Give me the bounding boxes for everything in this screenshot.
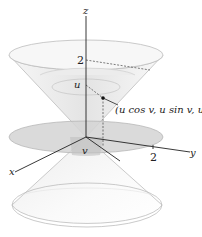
x-axis-label: x: [9, 166, 15, 177]
point-label: (u cos v, u sin v, u): [115, 104, 202, 115]
z-tick-label: 2: [77, 54, 84, 67]
point-marker: [101, 96, 105, 100]
z-axis-label: z: [82, 5, 89, 16]
angle-v-label: v: [82, 145, 88, 156]
y-axis-label: y: [189, 147, 196, 158]
cone-diagram: z x y 2 2 u v (u cos v, u sin v, u): [0, 0, 202, 237]
y-tick-label: 2: [150, 151, 157, 164]
height-u-label: u: [74, 79, 80, 90]
